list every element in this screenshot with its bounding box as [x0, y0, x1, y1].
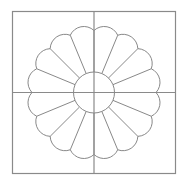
dresden-plate-diagram: [0, 0, 185, 183]
